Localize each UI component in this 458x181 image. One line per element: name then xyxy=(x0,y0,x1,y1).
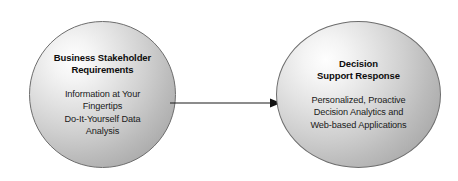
node-decision-support-response[interactable]: Decision Support Response Personalized, … xyxy=(276,21,441,168)
node-body-business-stakeholder-requirements: Information at Your Fingertips Do-It-You… xyxy=(65,88,141,138)
node-title-decision-support-response: Decision Support Response xyxy=(317,58,400,83)
node-body-decision-support-response: Personalized, Proactive Decision Analyti… xyxy=(310,94,406,131)
diagram-canvas: Business Stakeholder Requirements Inform… xyxy=(0,0,458,181)
connector-arrow-icon xyxy=(170,92,282,114)
node-business-stakeholder-requirements[interactable]: Business Stakeholder Requirements Inform… xyxy=(29,21,176,168)
node-title-business-stakeholder-requirements: Business Stakeholder Requirements xyxy=(54,52,151,77)
